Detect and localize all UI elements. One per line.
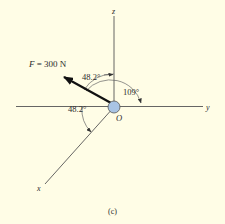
force-label: F = 300 N <box>28 59 67 69</box>
force-vector-diagram: z y x F = 300 N 48.2° 109° 48.2° O (c) <box>0 0 225 224</box>
force-equals: = <box>35 59 45 69</box>
force-value: 300 N <box>44 59 67 69</box>
angle-label-force-z: 48.2° <box>82 72 100 82</box>
angle-label-force-y: 109° <box>123 87 139 97</box>
angle-tick-z <box>104 75 113 76</box>
angle-label-neg-y-x: 48.2° <box>68 104 86 114</box>
figure-caption: (c) <box>108 207 117 216</box>
z-axis-label: z <box>111 7 116 16</box>
x-axis-label: x <box>36 184 41 193</box>
origin-label: O <box>116 113 122 123</box>
origin-point <box>108 101 120 113</box>
y-axis-label: y <box>205 103 210 112</box>
x-axis <box>45 107 114 184</box>
